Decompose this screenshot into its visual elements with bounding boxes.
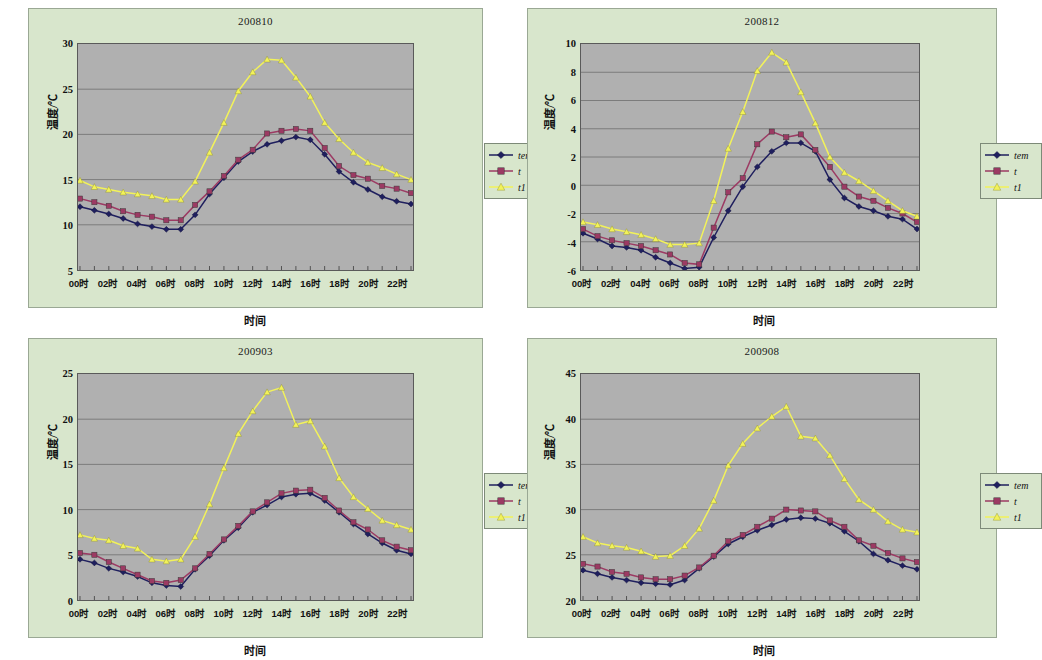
x-tick-label: 04时 [630, 276, 651, 290]
chart-cell: 时间200908温度/℃20253035404500时02时04时06时08时1… [509, 330, 1018, 660]
x-axis-tick-labels: 00时02时04时06时08时10时12时14时16时18时20时22时 [77, 271, 414, 295]
x-tick-label: 18时 [329, 606, 350, 620]
y-tick-label: -4 [567, 237, 576, 248]
x-tick-label: 14时 [776, 606, 797, 620]
chart-title: 200903 [29, 345, 482, 357]
x-tick-label: 18时 [329, 276, 350, 290]
plot-area [77, 373, 414, 601]
x-tick-label: 14时 [271, 606, 292, 620]
x-tick-label: 08时 [689, 606, 710, 620]
x-tick-label: 00时 [69, 606, 90, 620]
chart-panel-200812: 200812温度/℃-6-4-2024681000时02时04时06时08时10… [527, 8, 997, 308]
legend-label: t1 [1014, 512, 1022, 523]
x-axis-title: 时间 [0, 312, 509, 328]
x-tick-label: 12时 [242, 606, 263, 620]
x-tick-label: 08时 [185, 276, 206, 290]
x-axis-tick-labels: 00时02时04时06时08时10时12时14时16时18时20时22时 [580, 271, 920, 295]
x-tick-label: 22时 [387, 276, 408, 290]
y-tick-label: 10 [566, 38, 577, 49]
legend-label: t [1014, 496, 1017, 507]
y-tick-label: 15 [63, 459, 74, 470]
legend-item-t1[interactable]: t1 [984, 509, 1039, 525]
square-marker-icon [984, 165, 1010, 177]
triangle-marker-icon [984, 181, 1010, 193]
x-tick-label: 16时 [300, 276, 321, 290]
diamond-marker-icon [984, 479, 1010, 491]
legend-label: t1 [1014, 182, 1022, 193]
y-tick-label: 30 [566, 504, 577, 515]
x-tick-label: 00时 [572, 606, 593, 620]
plot-area [77, 43, 414, 271]
y-tick-label: 5 [68, 266, 73, 277]
y-axis-tick-labels: -6-4-20246810 [544, 43, 576, 271]
x-tick-label: 06时 [659, 606, 680, 620]
chart-legend: tem t t1 [980, 143, 1042, 199]
chart-cell: 时间200810温度/℃5101520253000时02时04时06时08时10… [0, 0, 509, 330]
chart-panel-200810: 200810温度/℃5101520253000时02时04时06时08时10时1… [28, 8, 483, 308]
y-tick-label: -2 [567, 209, 576, 220]
plot-area-wrapper: 20253035404500时02时04时06时08时10时12时14时16时1… [580, 373, 920, 601]
y-tick-label: 10 [63, 504, 74, 515]
y-tick-label: 20 [566, 596, 577, 607]
x-tick-label: 00时 [69, 276, 90, 290]
x-tick-label: 04时 [630, 606, 651, 620]
y-tick-label: 6 [571, 95, 576, 106]
y-tick-label: 20 [63, 413, 74, 424]
legend-item-tem[interactable]: tem [984, 477, 1039, 493]
y-tick-label: 45 [566, 368, 577, 379]
legend-item-t1[interactable]: t1 [984, 179, 1039, 195]
chart-title: 200810 [29, 15, 482, 27]
chart-title: 200812 [528, 15, 996, 27]
square-marker-icon [984, 495, 1010, 507]
x-tick-label: 12时 [747, 606, 768, 620]
x-axis-title: 时间 [509, 642, 1018, 658]
y-tick-label: 35 [566, 459, 577, 470]
x-tick-label: 10时 [213, 606, 234, 620]
x-tick-label: 20时 [864, 606, 885, 620]
x-tick-label: 12时 [747, 276, 768, 290]
x-tick-label: 02时 [98, 276, 119, 290]
y-tick-label: 25 [566, 550, 577, 561]
x-tick-label: 04时 [127, 276, 148, 290]
x-tick-label: 16时 [805, 276, 826, 290]
x-tick-label: 16时 [805, 606, 826, 620]
legend-label: tem [1014, 150, 1028, 161]
chart-panel-200908: 200908温度/℃20253035404500时02时04时06时08时10时… [527, 338, 997, 638]
x-tick-label: 14时 [776, 276, 797, 290]
chart-legend: tem t t1 [980, 473, 1042, 529]
y-tick-label: 15 [63, 174, 74, 185]
y-axis-tick-labels: 0510152025 [41, 373, 73, 601]
x-tick-label: 08时 [689, 276, 710, 290]
y-tick-label: 20 [63, 129, 74, 140]
y-tick-label: 25 [63, 83, 74, 94]
x-tick-label: 12时 [242, 276, 263, 290]
legend-item-t[interactable]: t [984, 163, 1039, 179]
plot-area-wrapper: 051015202500时02时04时06时08时10时12时14时16时18时… [77, 373, 414, 601]
diamond-marker-icon [984, 149, 1010, 161]
plot-area [580, 43, 920, 271]
y-tick-label: 40 [566, 413, 577, 424]
y-axis-tick-labels: 51015202530 [41, 43, 73, 271]
y-tick-label: -6 [567, 266, 576, 277]
x-axis-title: 时间 [509, 312, 1018, 328]
x-tick-label: 04时 [127, 606, 148, 620]
y-tick-label: 2 [571, 152, 576, 163]
legend-item-tem[interactable]: tem [984, 147, 1039, 163]
x-axis-tick-labels: 00时02时04时06时08时10时12时14时16时18时20时22时 [580, 601, 920, 625]
x-tick-label: 02时 [98, 606, 119, 620]
plot-area-wrapper: -6-4-2024681000时02时04时06时08时10时12时14时16时… [580, 43, 920, 271]
x-axis-title: 时间 [0, 642, 509, 658]
legend-item-t[interactable]: t [984, 493, 1039, 509]
x-tick-label: 22时 [387, 606, 408, 620]
x-tick-label: 06时 [156, 606, 177, 620]
x-tick-label: 10时 [718, 606, 739, 620]
x-tick-label: 22时 [893, 276, 914, 290]
x-tick-label: 08时 [185, 606, 206, 620]
y-tick-label: 5 [68, 550, 73, 561]
x-tick-label: 20时 [358, 276, 379, 290]
y-tick-label: 25 [63, 368, 74, 379]
y-tick-label: 4 [571, 123, 576, 134]
x-tick-label: 06时 [659, 276, 680, 290]
x-tick-label: 14时 [271, 276, 292, 290]
